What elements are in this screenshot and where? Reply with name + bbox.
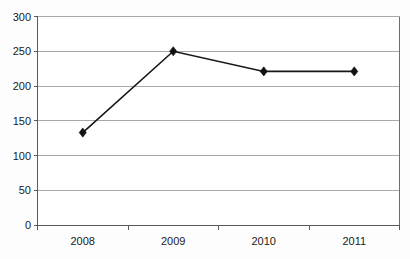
x-tick-label-2011: 2011 bbox=[342, 235, 366, 247]
y-tick-label-250: 250 bbox=[13, 45, 31, 57]
x-axis-tickmarks bbox=[38, 225, 400, 230]
y-tick-label-300: 300 bbox=[13, 11, 31, 23]
y-axis-tickmarks bbox=[34, 17, 38, 226]
line-chart: 300 250 200 150 100 50 0 2008 2009 2010 … bbox=[0, 0, 410, 259]
y-tick-label-200: 200 bbox=[13, 80, 31, 92]
y-tick-label-100: 100 bbox=[13, 150, 31, 162]
chart-canvas: 300 250 200 150 100 50 0 2008 2009 2010 … bbox=[0, 0, 410, 259]
x-tick-label-2010: 2010 bbox=[252, 235, 276, 247]
x-axis-labels: 2008 2009 2010 2011 bbox=[71, 235, 367, 247]
x-tick-label-2008: 2008 bbox=[71, 235, 95, 247]
y-tick-label-150: 150 bbox=[13, 115, 31, 127]
x-tick-label-2009: 2009 bbox=[161, 235, 185, 247]
y-axis-labels: 300 250 200 150 100 50 0 bbox=[13, 11, 31, 232]
y-tick-label-50: 50 bbox=[19, 184, 31, 196]
y-tick-label-0: 0 bbox=[25, 219, 31, 231]
